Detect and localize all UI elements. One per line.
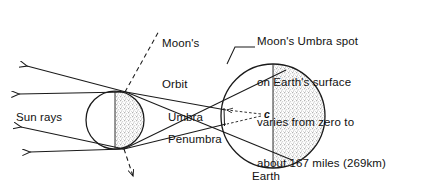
label-sun-rays: Sun rays (16, 111, 62, 125)
callout-line-1: Moon's Umbra spot (257, 35, 386, 49)
sun-ray-2 (19, 92, 126, 94)
umbra-spot-extent-bar (224, 108, 225, 126)
moon-orbit-upper (125, 31, 159, 92)
callout-text-block: Moon's Umbra spot on Earth's surface var… (257, 8, 386, 192)
label-penumbra: Penumbra (168, 133, 222, 147)
moon-orbit-lower-arrow (124, 149, 133, 176)
label-moons-orbit-line2: Orbit (162, 78, 199, 92)
callout-line-4: about 167 miles (269km) (257, 157, 386, 171)
umbra-spot-marker-group (224, 108, 261, 126)
callout-leader-path (227, 47, 255, 64)
label-moons-orbit-line1: Moon's (162, 37, 199, 51)
label-moons-orbit: Moon's Orbit (162, 10, 199, 118)
umbra-spot-leader-lower (227, 116, 261, 124)
sun-ray-4 (30, 149, 124, 152)
umbra-spot-leader-upper (227, 110, 261, 114)
sun-ray-3 (21, 127, 124, 149)
eclipse-diagram: Sun rays Umbra Penumbra Earth c Moon's O… (0, 0, 440, 192)
callout-leader-line (227, 47, 255, 64)
sun-rays-group (19, 66, 126, 152)
callout-line-3: varies from zero to (257, 116, 386, 130)
callout-line-2: on Earth's surface (257, 76, 386, 90)
sun-ray-1 (27, 66, 126, 92)
